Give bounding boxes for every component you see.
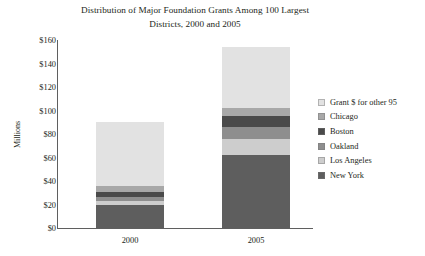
bar-segment-new-york bbox=[96, 205, 164, 228]
legend-label-new-york: New York bbox=[330, 171, 364, 180]
chart-legend: Grant $ for other 95ChicagoBostonOakland… bbox=[318, 95, 424, 183]
legend-item-boston[interactable]: Boston bbox=[318, 124, 424, 139]
bar-segment-new-york bbox=[222, 155, 290, 228]
legend-swatch-icon-grant-for-other-95 bbox=[318, 99, 325, 106]
bar-segment-los-angeles bbox=[222, 139, 290, 155]
legend-item-grant-for-other-95[interactable]: Grant $ for other 95 bbox=[318, 95, 424, 110]
y-axis-tick-20: $20 bbox=[10, 200, 56, 209]
bar-2000 bbox=[96, 122, 164, 228]
legend-item-new-york[interactable]: New York bbox=[318, 168, 424, 183]
y-axis-tick-80: $80 bbox=[10, 130, 56, 139]
y-axis-tick-120: $120 bbox=[10, 83, 56, 92]
legend-swatch-icon-chicago bbox=[318, 113, 325, 120]
chart-title: Distribution of Major Foundation Grants … bbox=[30, 4, 360, 31]
legend-label-boston: Boston bbox=[330, 127, 354, 136]
legend-label-chicago: Chicago bbox=[330, 112, 358, 121]
y-axis-tick-60: $60 bbox=[10, 153, 56, 162]
chart-title-line-1: Distribution of Major Foundation Grants … bbox=[81, 5, 309, 15]
x-axis-tick-2000: 2000 bbox=[95, 236, 165, 245]
legend-item-los-angeles[interactable]: Los Angeles bbox=[318, 153, 424, 168]
legend-swatch-icon-oakland bbox=[318, 143, 325, 150]
legend-label-los-angeles: Los Angeles bbox=[330, 156, 372, 165]
bar-segment-boston bbox=[222, 116, 290, 127]
legend-swatch-icon-los-angeles bbox=[318, 157, 325, 164]
y-axis-tick-140: $140 bbox=[10, 59, 56, 68]
legend-label-oakland: Oakland bbox=[330, 142, 358, 151]
bar-segment-grant-for-other-95 bbox=[222, 47, 290, 108]
y-axis-tick-100: $100 bbox=[10, 106, 56, 115]
y-axis-tick-160: $160 bbox=[10, 36, 56, 45]
y-axis-tick-labels: $160$140$120$100$80$60$40$20$0 bbox=[0, 0, 56, 256]
x-axis-tick-2005: 2005 bbox=[221, 236, 291, 245]
bar-segment-grant-for-other-95 bbox=[96, 122, 164, 186]
bar-segment-oakland bbox=[222, 127, 290, 139]
legend-item-chicago[interactable]: Chicago bbox=[318, 110, 424, 125]
x-axis-line bbox=[57, 228, 313, 229]
bar-2005 bbox=[222, 47, 290, 228]
y-axis-tick-0: $0 bbox=[10, 224, 56, 233]
legend-item-oakland[interactable]: Oakland bbox=[318, 139, 424, 154]
plot-area bbox=[57, 40, 313, 228]
legend-swatch-icon-new-york bbox=[318, 172, 325, 179]
legend-label-grant-for-other-95: Grant $ for other 95 bbox=[330, 98, 397, 107]
y-axis-tick-40: $40 bbox=[10, 177, 56, 186]
chart-container: Distribution of Major Foundation Grants … bbox=[0, 0, 425, 256]
chart-title-line-2: Districts, 2000 and 2005 bbox=[149, 19, 241, 29]
bar-segment-chicago bbox=[222, 108, 290, 116]
legend-swatch-icon-boston bbox=[318, 128, 325, 135]
